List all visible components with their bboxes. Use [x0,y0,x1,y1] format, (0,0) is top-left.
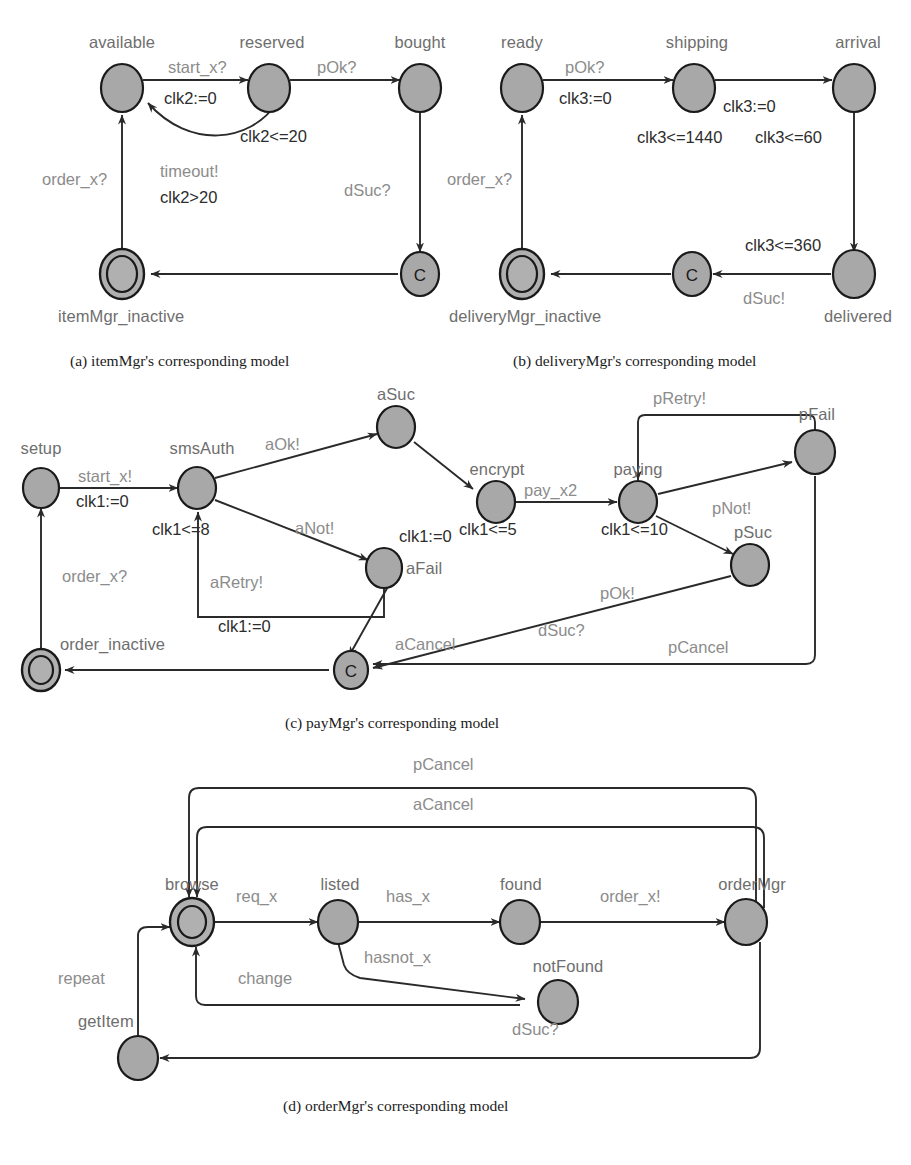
edge-label-aretry: aRetry! [210,573,263,591]
state-node-paying[interactable] [619,481,657,523]
edge-label-pok-c: pOk! [600,584,635,602]
edge-label-timeout: timeout! [160,162,219,180]
invariant-label-smsauth: clk1<=8 [152,520,210,538]
state-label-delivered: delivered [824,307,892,325]
edge-label-repeat: repeat [58,969,105,987]
state-label-available: available [89,33,155,51]
state-node-bought[interactable] [399,64,441,112]
edge-afail-smsauth [198,512,384,617]
state-label-order-inactive: order_inactive [60,635,165,654]
invariant-label-delivered: clk3<=360 [745,236,821,254]
state-label-pfail: pFail [799,405,835,423]
state-node-encrypt[interactable] [477,481,515,523]
caption-figure-c: (c) payMgr's corresponding model [285,714,499,732]
invariant-label-encrypt: clk1<=5 [459,520,517,538]
state-node-pfail[interactable] [795,430,835,474]
edge-label-start-x-c: start_x! [78,467,132,486]
edge-label-req-x: req_x [236,887,278,906]
state-label-setup: setup [21,439,62,457]
edge-ordermgr-browse-acancel [197,827,764,908]
state-node-shipping[interactable] [673,64,715,112]
invariant-label-arrival: clk3<=60 [755,128,822,146]
state-node-notfound[interactable] [538,980,578,1024]
state-node-afail[interactable] [366,548,402,588]
edge-label-dsuc: dSuc? [344,181,391,199]
edge-label-change: change [238,969,292,987]
committed-marker-a: C [414,266,426,285]
edge-label-order-x-c: order_x? [62,567,127,586]
edge-label-dsuc-b: dSuc! [743,289,785,307]
state-node-listed[interactable] [318,900,358,944]
edge-label-clk2-reset: clk2:=0 [164,89,217,107]
invariant-label-paying: clk1<=10 [601,520,668,538]
edge-label-dsuc-c: dSuc? [538,621,585,639]
state-node-available[interactable] [101,64,143,112]
state-label-itemmgr-inactive: itemMgr_inactive [58,307,184,326]
state-node-found[interactable] [500,900,540,944]
edge-label-pok-b: pOk? [565,58,604,76]
state-node-asuc[interactable] [377,406,415,448]
edge-label-clk3-reset-2: clk3:=0 [723,97,776,115]
edge-label-order-x-d: order_x! [600,887,661,906]
committed-marker-b: C [686,266,698,285]
state-node-reserved[interactable] [248,64,290,112]
edge-label-pcancel-c: pCancel [668,638,729,656]
state-label-getitem: getItem [78,1012,134,1030]
edge-afail-committed [349,583,390,656]
state-label-found: found [500,875,542,893]
figure-c-paymgr: C setup smsAuth aSuc aFail encrypt payin… [0,392,911,712]
state-label-shipping: shipping [666,33,728,51]
edge-pfail-paying [638,415,815,480]
state-node-getitem[interactable] [118,1036,158,1080]
edge-label-pcancel-d: pCancel [413,755,474,773]
edge-label-anot: aNot! [295,519,334,537]
state-label-listed: listed [320,875,359,893]
edge-asuc-encrypt [414,442,473,489]
caption-figure-b: (b) deliveryMgr's corresponding model [513,352,756,370]
guard-label-clk2-gt20: clk2>20 [160,188,217,206]
state-node-ready[interactable] [501,64,543,112]
edge-label-start-x: start_x? [168,58,227,77]
edge-paying-pfail [658,462,792,494]
edge-label-hasnot-x: hasnot_x [364,948,432,967]
state-label-psuc: pSuc [734,523,772,541]
edge-label-pok: pOk? [317,58,356,76]
edge-label-pnot: pNot! [712,499,751,517]
state-label-reserved: reserved [240,33,305,51]
committed-marker-c: C [345,662,357,681]
edge-label-pretry: pRetry! [653,389,706,407]
invariant-label-clk2-20: clk2<=20 [240,127,307,145]
edge-label-aok: aOk! [265,435,300,453]
figure-a-itemmgr: C available reserved bought itemMgr_inac… [0,0,460,345]
edge-label-dsuc-d: dSuc? [512,1020,559,1038]
edge-label-clk1-reset-setup: clk1:=0 [76,492,129,510]
edge-label-acancel-c: aCancel [395,635,456,653]
edge-label-clk3-reset-1: clk3:=0 [559,89,612,107]
state-label-bought: bought [394,33,445,51]
state-node-delivered[interactable] [833,250,875,298]
state-node-smsauth[interactable] [178,467,216,509]
edge-label-pay-x2: pay_x2 [524,481,577,500]
state-node-ordermgr[interactable] [725,899,767,945]
edge-label-clk1-reset-asuc: clk1:=0 [399,527,452,545]
edge-label-clk1-reset-retry: clk1:=0 [218,617,271,635]
state-label-ready: ready [501,33,543,51]
state-label-asuc: aSuc [377,385,415,403]
state-label-encrypt: encrypt [470,460,525,478]
state-label-notfound: notFound [533,957,604,975]
caption-figure-d: (d) orderMgr's corresponding model [283,1097,508,1115]
invariant-label-shipping: clk3<=1440 [637,128,722,146]
state-node-arrival[interactable] [833,64,875,112]
edge-ordermgr-getitem [160,942,760,1058]
state-node-psuc[interactable] [731,544,769,586]
caption-figure-a: (a) itemMgr's corresponding model [70,352,289,370]
state-label-deliverymgr-inactive: deliveryMgr_inactive [449,307,601,326]
edge-label-order-x-b: order_x? [447,170,512,189]
edge-label-acancel-d: aCancel [413,795,474,813]
edge-label-has-x: has_x [386,887,431,906]
figure-d-ordermgr: browse listed found notFound orderMgr ge… [0,750,911,1090]
state-node-setup[interactable] [23,468,59,508]
state-label-browse: browse [165,875,219,893]
state-label-afail: aFail [406,559,442,577]
figure-b-deliverymgr: C ready shipping arrival delivered deliv… [455,0,911,345]
